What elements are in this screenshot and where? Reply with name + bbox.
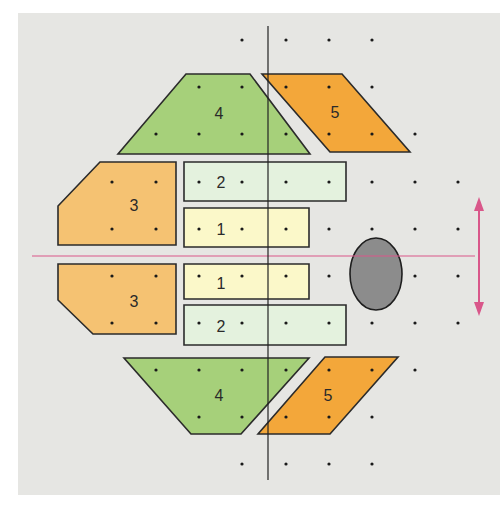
- grid-dot: [240, 321, 243, 324]
- shape-label: 5: [331, 104, 340, 121]
- grid-dot: [370, 415, 373, 418]
- grid-dot: [197, 227, 200, 230]
- shape-label: 3: [130, 293, 139, 310]
- grid-dot: [456, 321, 459, 324]
- grid-dot: [284, 274, 287, 277]
- grid-dot: [110, 180, 113, 183]
- shape-label: 5: [324, 387, 333, 404]
- grid-dot: [370, 462, 373, 465]
- grid-dot: [327, 368, 330, 371]
- grid-dot: [240, 132, 243, 135]
- grid-dot: [456, 180, 459, 183]
- grid-dot: [413, 180, 416, 183]
- grid-dot: [197, 368, 200, 371]
- grid-dot: [413, 132, 416, 135]
- grid-dot: [197, 180, 200, 183]
- grid-dot: [327, 227, 330, 230]
- vertical-double-arrow: [474, 197, 484, 316]
- grid-dot: [370, 132, 373, 135]
- grid-dot: [154, 321, 157, 324]
- arrow-head-up-icon: [474, 197, 484, 211]
- shape-label: 4: [215, 387, 224, 404]
- grid-dot: [154, 274, 157, 277]
- grid-dot: [327, 415, 330, 418]
- shape-label: 2: [217, 318, 226, 335]
- grid-dot: [327, 321, 330, 324]
- grid-dot: [327, 85, 330, 88]
- shape-1-top: 1: [184, 208, 309, 247]
- grid-dot: [154, 368, 157, 371]
- grid-dot: [284, 321, 287, 324]
- grid-dot: [370, 38, 373, 41]
- grid-dot: [327, 274, 330, 277]
- grid-dot: [197, 132, 200, 135]
- grid-dot: [240, 227, 243, 230]
- shape-label: 1: [217, 221, 226, 238]
- shape-1-bottom: 1: [184, 264, 309, 299]
- arrow-head-down-icon: [474, 302, 484, 316]
- grid-dot: [154, 227, 157, 230]
- shape-label: 3: [130, 197, 139, 214]
- diagram-canvas: 4532112345: [0, 0, 501, 513]
- shape-1-bottom-polygon: [184, 264, 309, 299]
- grid-dot: [240, 38, 243, 41]
- grid-dot: [240, 368, 243, 371]
- grid-dot: [284, 132, 287, 135]
- grid-dot: [370, 180, 373, 183]
- shape-3-bottom-polygon: [58, 264, 176, 334]
- shape-1-top-polygon: [184, 208, 309, 247]
- grid-dot: [284, 462, 287, 465]
- shape-label: 4: [215, 105, 224, 122]
- grid-dot: [370, 227, 373, 230]
- shape-2-bottom-polygon: [184, 305, 346, 345]
- grid-dot: [110, 227, 113, 230]
- grid-dot: [197, 274, 200, 277]
- grid-dot: [240, 415, 243, 418]
- grid-dot: [327, 180, 330, 183]
- grid-dot: [284, 227, 287, 230]
- shape-label: 2: [217, 174, 226, 191]
- grid-dot: [413, 368, 416, 371]
- grid-dot: [284, 180, 287, 183]
- grid-dot: [370, 321, 373, 324]
- grid-dot: [284, 38, 287, 41]
- grid-dot: [370, 85, 373, 88]
- grid-dot: [413, 321, 416, 324]
- grid-dot: [284, 85, 287, 88]
- grid-dot: [197, 321, 200, 324]
- shape-2-top-polygon: [184, 162, 346, 201]
- grid-dot: [197, 415, 200, 418]
- grid-dot: [197, 85, 200, 88]
- grid-dot: [413, 274, 416, 277]
- grid-dot: [154, 132, 157, 135]
- grid-dot: [456, 274, 459, 277]
- shape-3-top-polygon: [58, 162, 176, 245]
- grid-dot: [456, 227, 459, 230]
- grid-dot: [284, 415, 287, 418]
- grid-dot: [327, 462, 330, 465]
- grid-dot: [413, 227, 416, 230]
- grid-dot: [284, 368, 287, 371]
- gray-ellipse: [350, 238, 402, 310]
- grid-dot: [327, 132, 330, 135]
- shape-3-bottom: 3: [58, 264, 176, 334]
- grid-dot: [370, 368, 373, 371]
- grid-dot: [110, 274, 113, 277]
- grid-dot: [240, 462, 243, 465]
- grid-dot: [154, 180, 157, 183]
- grid-dot: [240, 85, 243, 88]
- shape-2-bottom: 2: [184, 305, 346, 345]
- grid-dot: [110, 321, 113, 324]
- shape-label: 1: [217, 275, 226, 292]
- grid-dot: [327, 38, 330, 41]
- grid-dot: [240, 180, 243, 183]
- grid-dot: [240, 274, 243, 277]
- shape-3-top: 3: [58, 162, 176, 245]
- shape-2-top: 2: [184, 162, 346, 201]
